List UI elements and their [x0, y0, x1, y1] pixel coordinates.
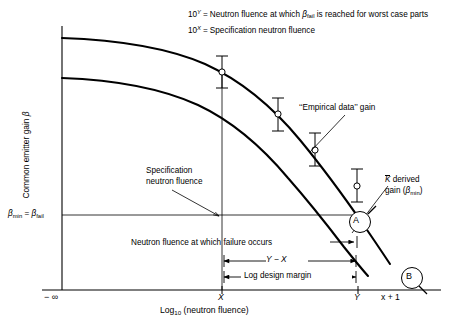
- annotation-empirical-data-gain: ‘‘Empirical data’’ gain: [299, 103, 375, 112]
- legend-equals-x: =: [201, 26, 210, 35]
- annotation-spec-line-1: Specification: [146, 166, 202, 177]
- kbar-derived-text: derived: [390, 175, 419, 184]
- annotation-y-minus-x: Y − X: [266, 254, 287, 264]
- legend: 10Y=Neutron fluence at which βfail is re…: [188, 6, 428, 37]
- marker-label-b: B: [406, 271, 412, 281]
- kbar-gain-post: ): [420, 186, 423, 195]
- legend-entry-x: 10X=Specification neutron fluence: [188, 22, 428, 37]
- xtick-label-Y: Y: [354, 292, 360, 302]
- kbar-gain-sub: min: [410, 189, 420, 195]
- legend-text-y-pre: Neutron fluence at which: [210, 10, 302, 19]
- annotation-log-design-margin: Log design margin: [244, 271, 311, 280]
- xtick-label-x-plus-1: x + 1: [381, 292, 400, 302]
- annotation-kbar-line-1: K derived: [385, 175, 422, 186]
- x-axis-label-post: (neutron fluence): [181, 305, 248, 315]
- y-axis-label: Common emitter gain β: [21, 85, 31, 225]
- y-axis-label-beta: β: [21, 111, 31, 116]
- beta-min-equals-beta-fail-label: βmin = βfail: [8, 209, 44, 219]
- leader-specification-fluence: [172, 190, 219, 216]
- x-axis-label-log: Log: [160, 305, 174, 315]
- annotation-specification-neutron-fluence: Specification neutron fluence: [146, 166, 202, 187]
- marker-label-a: A: [353, 215, 359, 225]
- annotation-spec-line-2: neutron fluence: [146, 177, 202, 188]
- beta-equals: =: [22, 209, 31, 218]
- plot-canvas: [0, 0, 452, 323]
- xtick-label-neg-infinity: − ∞: [44, 292, 58, 302]
- error-bar-3: [309, 133, 321, 166]
- legend-equals-y: =: [201, 10, 210, 19]
- legend-base-y: 10: [188, 10, 197, 19]
- x-axis-label: Log10 (neutron fluence): [160, 305, 249, 316]
- xtick-label-X: X: [218, 292, 224, 302]
- beta-sub-fail: fail: [36, 213, 44, 219]
- error-bar-2: [272, 98, 284, 131]
- y-axis-label-text: Common emitter gain: [21, 116, 31, 198]
- annotation-failure-occurs: Neutron fluence at which failure occurs: [131, 238, 272, 247]
- legend-base-x: 10: [188, 26, 197, 35]
- annotation-kbar-derived-gain: K derived gain (βmin): [385, 175, 422, 198]
- beta-sub-min: min: [13, 213, 23, 219]
- curve-empirical-data-gain: [62, 38, 390, 264]
- legend-entry-y: 10Y=Neutron fluence at which βfail is re…: [188, 6, 428, 22]
- legend-text-y-post: is reached for worst case parts: [314, 10, 428, 19]
- error-bar-4: [351, 169, 363, 202]
- figure-neutron-fluence-gain-degradation: 10Y=Neutron fluence at which βfail is re…: [0, 0, 452, 323]
- error-bar-1: [216, 56, 228, 88]
- legend-text-x: Specification neutron fluence: [210, 26, 315, 35]
- annotation-kbar-line-2: gain (βmin): [385, 186, 422, 198]
- kbar-gain-pre: gain (: [385, 186, 405, 195]
